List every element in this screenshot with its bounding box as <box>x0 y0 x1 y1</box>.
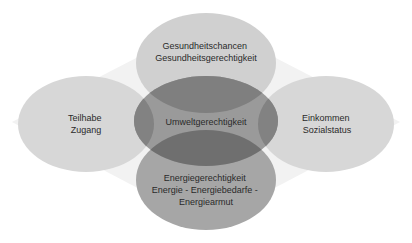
label-bottom-line: Energie - Energiebedarfe - <box>152 185 258 195</box>
label-left-line: Zugang <box>71 125 102 135</box>
label-right-line: Einkommen <box>302 113 350 123</box>
label-center-line: Umweltgerechtigkeit <box>165 117 247 127</box>
ellipse-right-einkommen <box>258 76 394 172</box>
ellipse-left-teilhabe <box>18 76 154 172</box>
label-bottom-line: Energiegerechtigkeit <box>164 173 247 183</box>
label-center: Umweltgerechtigkeit <box>165 117 247 127</box>
label-right-line: Sozialstatus <box>303 125 352 135</box>
label-bottom-line: Energiearmut <box>179 197 234 207</box>
label-top-line: Gesundheitschancen <box>162 41 247 51</box>
label-left-line: Teilhabe <box>68 113 102 123</box>
umweltgerechtigkeit-diagram: Gesundheitschancen Gesundheitsgerechtigk… <box>0 0 412 243</box>
label-top-line: Gesundheitsgerechtigkeit <box>155 53 257 63</box>
